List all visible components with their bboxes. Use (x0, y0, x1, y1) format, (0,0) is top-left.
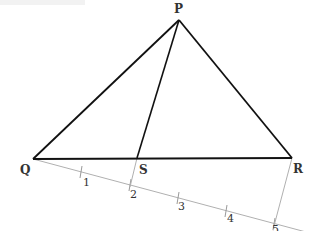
ray-ticks (80, 166, 275, 230)
label-P: P (174, 2, 183, 16)
geometry-diagram: P Q S R 1 2 3 4 5 (0, 0, 313, 231)
mark-1: 1 (83, 176, 90, 189)
join-S-2 (130, 158, 137, 187)
side-QR (33, 158, 292, 159)
mark-3: 3 (178, 200, 185, 213)
label-S: S (139, 163, 148, 177)
mark-4: 4 (227, 212, 234, 225)
label-Q: Q (20, 163, 30, 177)
mark-5: 5 (272, 223, 279, 231)
side-PR (179, 20, 292, 158)
mark-2: 2 (130, 188, 137, 201)
join-R-5 (274, 158, 292, 226)
label-R: R (293, 162, 304, 176)
construction-ray (33, 159, 306, 231)
